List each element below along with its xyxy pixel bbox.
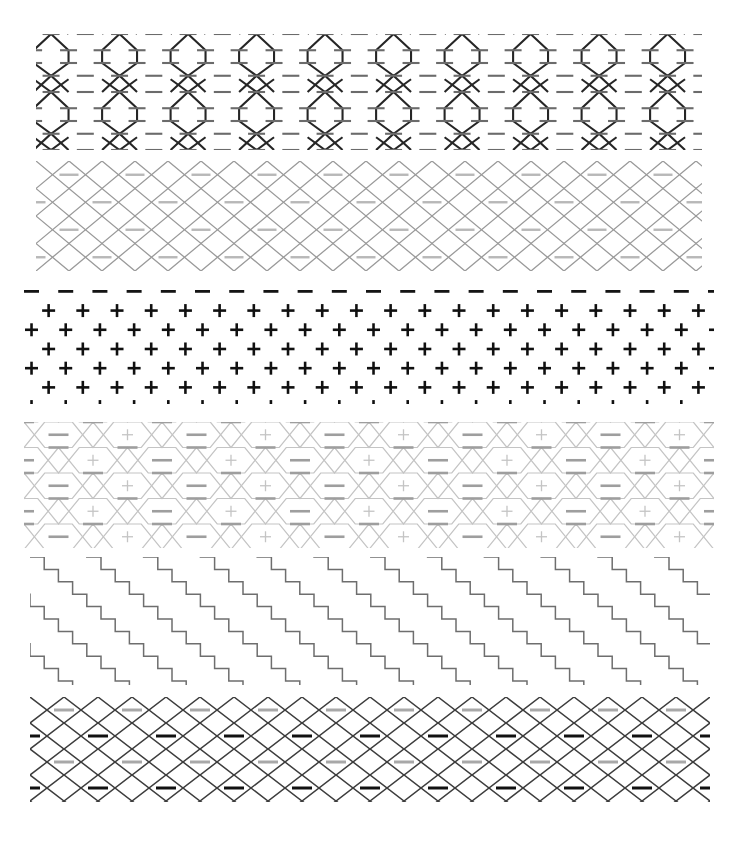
band-2-svg — [36, 161, 702, 271]
band-2-light-diamond-lattice — [36, 161, 702, 271]
band-3-plus-sign-grid — [24, 286, 714, 404]
band-1-svg — [36, 34, 702, 150]
band-1-hourglass-column — [36, 34, 702, 150]
band-3-svg — [24, 286, 714, 404]
band-4-svg — [24, 422, 714, 548]
band-5-svg — [30, 557, 710, 685]
band-6-svg — [30, 697, 710, 802]
pattern-sheet-canvas — [0, 0, 737, 842]
band-5-staircase — [30, 557, 710, 685]
band-4-pale-lattice-plus — [24, 422, 714, 548]
band-6-dark-diamond-lattice — [30, 697, 710, 802]
